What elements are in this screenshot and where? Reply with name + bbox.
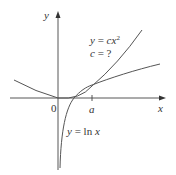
parabola-equation: y = cx2 — [89, 34, 120, 46]
tick-a-label: a — [89, 103, 95, 115]
log-curve — [60, 64, 160, 168]
function-graph: y x 0 a y = cx2 c = ? y = ln x — [0, 0, 176, 175]
y-axis-label: y — [43, 9, 49, 21]
origin-label: 0 — [51, 102, 57, 114]
y-axis-arrow-icon — [56, 11, 61, 18]
parabola-curve — [14, 30, 142, 98]
question-label: c = ? — [90, 47, 112, 59]
x-axis-label: x — [157, 102, 163, 114]
log-equation: y = ln x — [66, 125, 100, 137]
x-axis-arrow-icon — [159, 96, 166, 101]
